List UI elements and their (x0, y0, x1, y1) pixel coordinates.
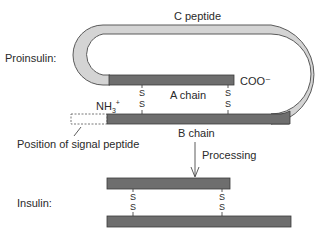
nh3-terminus-label: NH3+ (96, 100, 120, 112)
c-peptide-label: C peptide (174, 10, 221, 22)
disulfide-s-top: S (218, 193, 226, 201)
proinsulin-label: Proinsulin: (5, 52, 56, 64)
b-chain-label: B chain (178, 127, 215, 139)
processing-label: Processing (202, 149, 256, 161)
disulfide-s-bottom: S (138, 100, 146, 108)
insulin-label: Insulin: (17, 197, 52, 209)
nh3-base: NH (96, 100, 112, 112)
a-chain-label: A chain (170, 89, 206, 101)
disulfide-s-bottom: S (129, 203, 137, 211)
disulfide-s-top: S (138, 89, 146, 97)
nh3-sup: + (116, 99, 120, 106)
proinsulin-b-chain (107, 111, 290, 124)
disulfide-s-top: S (224, 89, 232, 97)
proinsulin-a-chain (109, 75, 234, 85)
nh3-sub: 3 (112, 107, 116, 114)
signal-peptide-box (71, 114, 107, 124)
disulfide-s-top: S (129, 193, 137, 201)
signal-peptide-label: Position of signal peptide (17, 138, 139, 150)
coo-terminus-label: COO⁻ (240, 75, 271, 87)
insulin-b-chain (107, 216, 291, 227)
disulfide-s-bottom: S (224, 100, 232, 108)
insulin-a-chain (107, 178, 230, 189)
signal-peptide-pointer (74, 127, 81, 136)
disulfide-s-bottom: S (218, 203, 226, 211)
